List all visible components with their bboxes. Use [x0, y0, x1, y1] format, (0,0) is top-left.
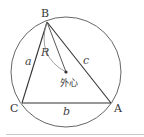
circumcircle-diagram: B C A a b c R 外心 [0, 0, 144, 137]
bottom-divider [6, 134, 144, 135]
side-c-line [47, 22, 111, 103]
vertex-label-c: C [10, 102, 18, 115]
circumcenter-point [64, 70, 67, 73]
vertex-label-a: A [113, 102, 123, 115]
radius-label: R [40, 46, 49, 59]
side-label-b: b [63, 105, 70, 118]
circumcenter-label: 外心 [60, 77, 78, 88]
vertex-label-b: B [41, 7, 49, 20]
side-label-c: c [83, 54, 89, 67]
side-label-a: a [25, 55, 32, 68]
radius-line [47, 22, 66, 72]
